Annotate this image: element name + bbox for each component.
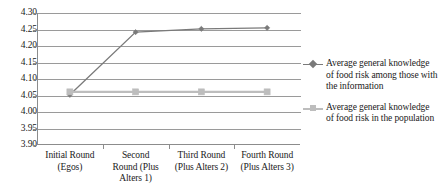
legend-key-marker (310, 105, 316, 111)
legend-key-icon (303, 103, 323, 114)
x-axis-category-label-line: Round (Plus (103, 162, 169, 174)
y-axis-tick-mark (33, 145, 37, 146)
x-axis-category-label-line: (Egos) (37, 162, 103, 174)
legend-label-line: of food risk in the population (326, 113, 434, 125)
gridline (38, 112, 301, 113)
legend-key-marker (309, 60, 317, 68)
legend-key-icon (303, 59, 323, 70)
x-axis-category-label-line: Second (103, 150, 169, 162)
legend-label-line: Average general knowledge (326, 58, 437, 70)
x-axis-category-label: Third Round(Plus Alters 2) (169, 150, 235, 173)
legend-label: Average general knowledgeof food risk am… (326, 58, 437, 93)
x-axis-tick-mark (103, 145, 104, 149)
x-axis-labels: Initial Round(Egos)SecondRound (PlusAlte… (37, 150, 300, 195)
legend-label: Average general knowledgeof food risk in… (326, 102, 434, 125)
x-axis-category-label-line: Initial Round (37, 150, 103, 162)
gridline (38, 129, 301, 130)
plot-area (37, 13, 300, 145)
legend-label-line: Average general knowledge (326, 102, 434, 114)
x-axis-category-label-line: Third Round (169, 150, 235, 162)
x-axis-category-label: Initial Round(Egos) (37, 150, 103, 173)
x-axis-category-label-line: (Plus Alters 2) (169, 162, 235, 174)
x-axis-category-label: Fourth Round(Plus Alters 3) (234, 150, 300, 173)
legend-label-line: of food risk among those with (326, 70, 437, 82)
legend-entry: Average general knowledgeof food risk in… (303, 102, 448, 125)
gridline (38, 79, 301, 80)
legend-label-line: the information (326, 81, 437, 93)
gridline (38, 13, 301, 14)
x-axis-category-label: SecondRound (PlusAlters 1) (103, 150, 169, 185)
gridline (38, 63, 301, 64)
x-axis-tick-mark (169, 145, 170, 149)
chart-figure: 4.304.254.204.154.104.054.003.953.90 Ini… (0, 0, 448, 195)
x-axis-category-label-line: Alters 1) (103, 173, 169, 185)
gridline (38, 46, 301, 47)
legend-entry: Average general knowledgeof food risk am… (303, 58, 448, 93)
x-axis-tick-mark (234, 145, 235, 149)
chart-legend: Average general knowledgeof food risk am… (303, 58, 448, 134)
gridline (38, 30, 301, 31)
gridline (38, 96, 301, 97)
x-axis-category-label-line: (Plus Alters 3) (234, 162, 300, 174)
y-axis: 4.304.254.204.154.104.054.003.953.90 (0, 0, 37, 195)
x-axis-category-label-line: Fourth Round (234, 150, 300, 162)
